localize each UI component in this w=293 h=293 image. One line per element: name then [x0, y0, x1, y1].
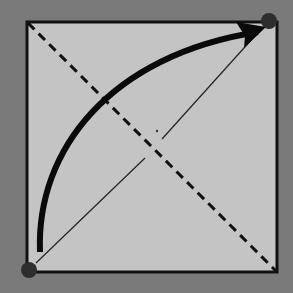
end-point-marker: [261, 13, 277, 29]
center-dot-marker: [156, 130, 158, 132]
start-point-marker: [21, 262, 37, 278]
diagram-canvas: [0, 0, 293, 293]
